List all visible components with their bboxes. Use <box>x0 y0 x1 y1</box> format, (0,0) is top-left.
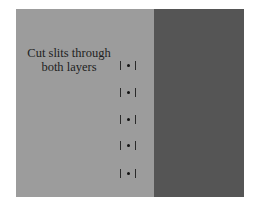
instruction-label: Cut slits through both layers <box>26 46 112 74</box>
slit-mark <box>118 61 138 71</box>
slit-mark <box>118 88 138 98</box>
slit-mark <box>118 169 138 179</box>
label-line-1: Cut slits through <box>26 46 112 60</box>
diagram-panel: Cut slits through both layers <box>16 9 244 197</box>
slit-mark <box>118 141 138 151</box>
slit-mark <box>118 115 138 125</box>
dark-fabric-layer <box>154 9 244 197</box>
label-line-2: both layers <box>26 60 112 74</box>
